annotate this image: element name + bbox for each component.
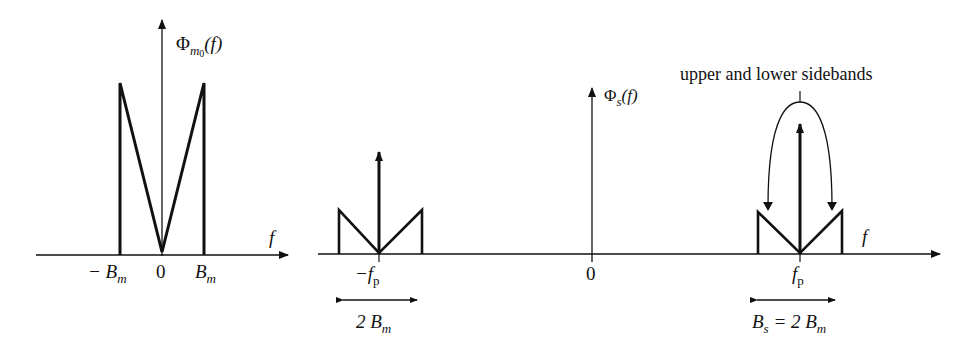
modulated-spectrum-plot [318, 88, 940, 300]
tick-neg-fp: −fp [355, 264, 380, 287]
bandwidth-label-right: Bs = 2 Bm [752, 312, 826, 335]
bandwidth-label-left: 2 Bm [356, 312, 391, 335]
tick-zero-left: 0 [156, 262, 166, 281]
tick-neg-bm: − Bm [88, 262, 127, 285]
tick-zero-right: 0 [586, 264, 596, 283]
tick-pos-bm: Bm [195, 262, 216, 285]
right-x-axis-label: f [862, 227, 867, 246]
left-x-axis-label: f [269, 228, 274, 247]
diagram-graphics [0, 0, 958, 348]
message-spectrum-plot [36, 20, 288, 256]
sideband-annotation: upper and lower sidebands [680, 65, 872, 83]
spectrum-diagram: Φm0(f) f − Bm 0 Bm Φs(f) f upper and low… [0, 0, 958, 348]
right-y-axis-label: Φs(f) [604, 87, 638, 108]
tick-pos-fp: fp [792, 264, 804, 287]
left-y-axis-label: Φm0(f) [176, 34, 222, 59]
